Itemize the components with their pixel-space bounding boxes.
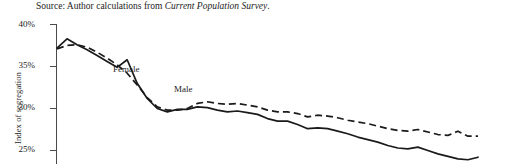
series-label-male: Male <box>174 84 193 94</box>
y-axis-group <box>50 24 57 164</box>
plot-area <box>0 0 517 164</box>
series-line-female <box>57 39 478 160</box>
series-label-female: Female <box>113 64 140 74</box>
series-line-male <box>57 45 478 137</box>
chart-figure: Source: Author calculations from Current… <box>0 0 517 164</box>
